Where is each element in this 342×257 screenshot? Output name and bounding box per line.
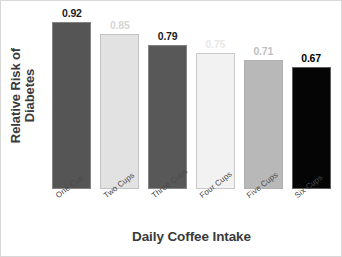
- x-axis-tick-labels: One CupTwo CupsThree CupsFour CupsFive C…: [48, 191, 335, 225]
- bar-value-label: 0.67: [301, 52, 321, 64]
- bar: [292, 67, 331, 189]
- bar-group: 0.75: [196, 7, 235, 189]
- y-axis-title-line-2: Diabetes: [23, 48, 37, 143]
- x-axis-title: Daily Coffee Intake: [48, 229, 335, 244]
- bar-group: 0.71: [244, 7, 283, 189]
- bar-value-label: 0.79: [158, 30, 178, 42]
- bar-group: 0.85: [100, 7, 139, 189]
- bar: [52, 22, 91, 189]
- y-axis-title-text: Relative Risk of Diabetes: [9, 48, 36, 143]
- bar-group: 0.92: [52, 7, 91, 189]
- bar-value-label: 0.85: [110, 19, 130, 31]
- bar-value-label: 0.71: [253, 45, 273, 57]
- bar: [244, 60, 283, 189]
- bar-chart-figure: Relative Risk of Diabetes 0.920.850.790.…: [0, 0, 342, 257]
- bar: [196, 53, 235, 190]
- plot-area: 0.920.850.790.750.710.67: [48, 7, 335, 189]
- bar-value-label: 0.75: [206, 38, 226, 50]
- bar-group: 0.79: [148, 7, 187, 189]
- bar-value-label: 0.92: [62, 7, 82, 19]
- bar-group: 0.67: [292, 7, 331, 189]
- y-axis-title: Relative Risk of Diabetes: [1, 1, 45, 191]
- bar: [100, 34, 139, 189]
